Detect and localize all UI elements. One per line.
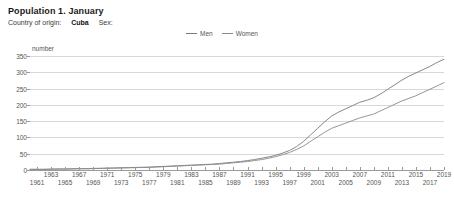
x-tick-mark bbox=[416, 167, 417, 170]
x-tick-mark bbox=[93, 167, 94, 170]
chart-page: Population 1. January Country of origin:… bbox=[0, 0, 454, 210]
x-tick-mark bbox=[388, 167, 389, 170]
legend-label: Women bbox=[236, 30, 258, 37]
x-tick-label: 2013 bbox=[395, 179, 409, 186]
x-tick-label: 1995 bbox=[268, 171, 282, 178]
x-tick-mark bbox=[163, 167, 164, 170]
legend-label: Men bbox=[200, 30, 213, 37]
x-tick-label: 1981 bbox=[170, 179, 184, 186]
x-tick-mark bbox=[276, 167, 277, 170]
x-tick-label: 1979 bbox=[156, 171, 170, 178]
x-tick-mark bbox=[79, 167, 80, 170]
x-tick-label: 2015 bbox=[409, 171, 423, 178]
x-tick-label: 1969 bbox=[86, 179, 100, 186]
x-tick-label: 2001 bbox=[310, 179, 324, 186]
series-line-women bbox=[30, 83, 444, 170]
x-tick-label: 1975 bbox=[128, 171, 142, 178]
y-tick-label: 200 bbox=[16, 101, 27, 108]
x-tick-mark bbox=[177, 167, 178, 170]
x-tick-label: 2019 bbox=[437, 171, 451, 178]
x-tick-label: 1985 bbox=[198, 179, 212, 186]
page-title: Population 1. January bbox=[8, 6, 104, 16]
x-tick-mark bbox=[304, 167, 305, 170]
x-tick-label: 1967 bbox=[72, 171, 86, 178]
y-tick-label: 350 bbox=[16, 53, 27, 60]
x-tick-mark bbox=[444, 167, 445, 170]
x-tick-label: 2017 bbox=[423, 179, 437, 186]
x-tick-label: 1963 bbox=[44, 171, 58, 178]
x-tick-mark bbox=[205, 167, 206, 170]
x-tick-label: 1997 bbox=[282, 179, 296, 186]
x-tick-mark bbox=[332, 167, 333, 170]
legend-item-women[interactable]: Women bbox=[222, 30, 258, 37]
y-tick-label: 300 bbox=[16, 69, 27, 76]
x-tick-mark bbox=[121, 167, 122, 170]
y-tick-label: 150 bbox=[16, 118, 27, 125]
x-tick-mark bbox=[402, 167, 403, 170]
x-tick-mark bbox=[346, 167, 347, 170]
x-tick-mark bbox=[149, 167, 150, 170]
y-tick-label: 50 bbox=[20, 150, 27, 157]
x-tick-label: 1993 bbox=[254, 179, 268, 186]
filter-summary: Country of origin: Cuba Sex: bbox=[8, 19, 113, 26]
x-tick-label: 2007 bbox=[353, 171, 367, 178]
x-tick-label: 2011 bbox=[381, 171, 395, 178]
x-tick-mark bbox=[191, 167, 192, 170]
x-tick-mark bbox=[248, 167, 249, 170]
x-tick-mark bbox=[65, 167, 66, 170]
chart-legend: MenWomen bbox=[186, 30, 258, 37]
x-axis: 1961196319651967196919711973197519771979… bbox=[30, 170, 444, 196]
x-tick-label: 1991 bbox=[240, 171, 254, 178]
x-tick-label: 1999 bbox=[296, 171, 310, 178]
x-tick-label: 1989 bbox=[226, 179, 240, 186]
x-tick-label: 2009 bbox=[367, 179, 381, 186]
x-tick-mark bbox=[430, 167, 431, 170]
x-tick-mark bbox=[290, 167, 291, 170]
x-tick-mark bbox=[374, 167, 375, 170]
x-tick-label: 2005 bbox=[339, 179, 353, 186]
y-tick-label: 250 bbox=[16, 85, 27, 92]
origin-value[interactable]: Cuba bbox=[71, 19, 89, 26]
y-axis-title: number bbox=[32, 45, 54, 52]
x-tick-label: 1965 bbox=[58, 179, 72, 186]
legend-swatch-icon bbox=[186, 33, 197, 34]
x-tick-mark bbox=[233, 167, 234, 170]
x-tick-mark bbox=[107, 167, 108, 170]
x-tick-mark bbox=[51, 167, 52, 170]
x-tick-label: 2003 bbox=[324, 171, 338, 178]
origin-label: Country of origin: bbox=[8, 19, 61, 26]
y-tick-label: 0 bbox=[23, 167, 27, 174]
x-tick-mark bbox=[360, 167, 361, 170]
x-tick-label: 1983 bbox=[184, 171, 198, 178]
x-tick-mark bbox=[219, 167, 220, 170]
legend-item-men[interactable]: Men bbox=[186, 30, 213, 37]
y-tick-label: 100 bbox=[16, 134, 27, 141]
series-layer bbox=[30, 56, 444, 170]
x-tick-label: 1987 bbox=[212, 171, 226, 178]
legend-swatch-icon bbox=[222, 33, 233, 34]
x-tick-mark bbox=[318, 167, 319, 170]
plot-area: 050100150200250300350 bbox=[30, 56, 444, 170]
x-tick-label: 1971 bbox=[100, 171, 114, 178]
x-tick-label: 1973 bbox=[114, 179, 128, 186]
series-line-men bbox=[30, 59, 444, 169]
x-tick-mark bbox=[262, 167, 263, 170]
x-tick-mark bbox=[37, 167, 38, 170]
x-tick-mark bbox=[135, 167, 136, 170]
x-tick-label: 1977 bbox=[142, 179, 156, 186]
sex-label: Sex: bbox=[99, 19, 113, 26]
x-tick-label: 1961 bbox=[30, 179, 44, 186]
